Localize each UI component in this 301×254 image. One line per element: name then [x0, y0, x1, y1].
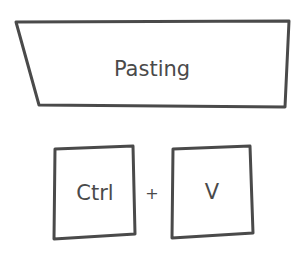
ctrl-key-label: Ctrl — [76, 181, 113, 205]
plus-operator: + — [145, 184, 158, 203]
v-key-label: V — [205, 180, 219, 204]
diagram-canvas — [0, 0, 301, 254]
pasting-label: Pasting — [114, 57, 190, 81]
